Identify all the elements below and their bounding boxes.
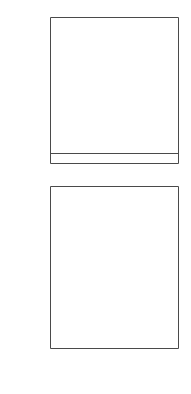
two-panel-scatter-figure (0, 0, 191, 394)
top-panel (16, 18, 179, 164)
figure-container (0, 0, 191, 394)
top-panel-frame (51, 18, 179, 164)
bottom-panel-frame (51, 187, 179, 349)
bottom-panel (51, 187, 179, 349)
